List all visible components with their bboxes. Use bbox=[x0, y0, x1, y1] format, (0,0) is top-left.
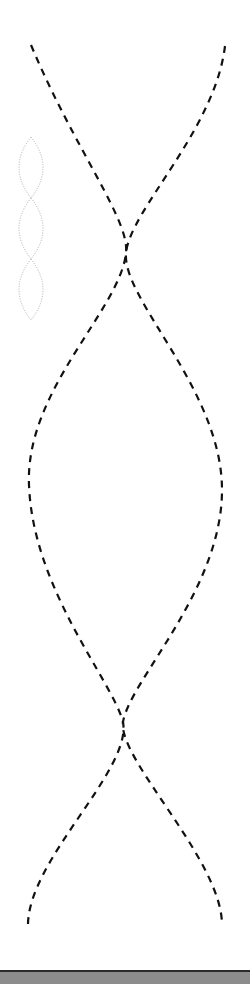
bottom-bar bbox=[0, 970, 250, 984]
mini-helix-lobe bbox=[19, 137, 43, 198]
right-dashed-strand bbox=[123, 46, 225, 925]
helix-diagram bbox=[0, 0, 250, 972]
left-dashed-strand bbox=[28, 45, 126, 925]
mini-helix-lobe bbox=[19, 198, 43, 259]
mini-helix-lobe bbox=[19, 259, 43, 320]
mini-helix-thumbnail bbox=[19, 137, 43, 320]
main-helix bbox=[28, 45, 225, 925]
